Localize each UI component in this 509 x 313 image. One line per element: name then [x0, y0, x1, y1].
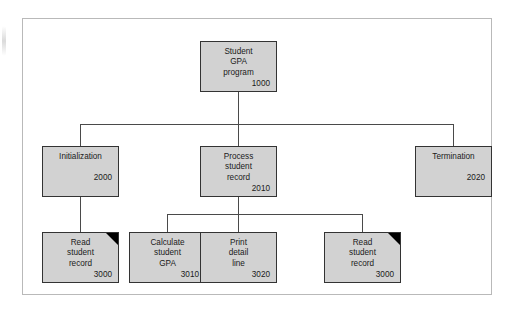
module-print-detail-line[interactable]: Print detail line 3020 [200, 232, 277, 283]
connector-bus-to-termination [453, 124, 454, 146]
connector-bus-to-read-process [362, 214, 363, 232]
connector-level1-bus [80, 124, 453, 125]
folded-corner-icon [388, 233, 400, 245]
scan-artifact [2, 26, 6, 56]
connector-initialization-to-read [80, 197, 81, 232]
module-id: 2000 [49, 173, 112, 183]
module-name: Initialization [49, 152, 112, 162]
connector-level2-bus [167, 214, 362, 215]
module-id: 3020 [207, 270, 270, 280]
module-process-student-record[interactable]: Process student record 2010 [200, 146, 277, 197]
connector-bus-to-calculate [167, 214, 168, 232]
connector-bus-to-initialization [80, 124, 81, 146]
connector-process-stem [238, 197, 239, 214]
module-name: Student GPA program [207, 47, 270, 78]
module-id: 2010 [207, 184, 270, 194]
module-id: 1000 [207, 79, 270, 89]
module-name: Calculate student GPA [136, 238, 199, 269]
module-name: Process student record [207, 152, 270, 183]
connector-bus-to-print [238, 214, 239, 232]
module-name: Read student record [49, 238, 112, 269]
module-student-gpa-program[interactable]: Student GPA program 1000 [200, 41, 277, 92]
module-name: Read student record [331, 238, 394, 269]
module-id: 3000 [49, 270, 112, 280]
connector-root-stem [238, 92, 239, 124]
module-id: 2020 [422, 173, 485, 183]
module-termination[interactable]: Termination 2020 [415, 146, 492, 197]
module-read-student-record-init[interactable]: Read student record 3000 [42, 232, 119, 283]
structure-chart-figure: Student GPA program 1000 Initialization … [0, 0, 509, 313]
module-initialization[interactable]: Initialization 2000 [42, 146, 119, 197]
diagram-frame: Student GPA program 1000 Initialization … [22, 18, 492, 295]
connector-bus-to-process [238, 124, 239, 146]
module-name: Termination [422, 152, 485, 162]
module-id: 3010 [136, 270, 199, 280]
module-id: 3000 [331, 270, 394, 280]
module-calculate-student-gpa[interactable]: Calculate student GPA 3010 [129, 232, 206, 283]
folded-corner-icon [106, 233, 118, 245]
module-read-student-record-process[interactable]: Read student record 3000 [324, 232, 401, 283]
module-name: Print detail line [207, 238, 270, 269]
